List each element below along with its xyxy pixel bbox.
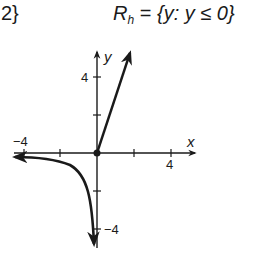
y-tick-label-4: 4 (81, 70, 88, 85)
line-right-branch (97, 53, 130, 153)
y-axis-label: y (103, 48, 113, 65)
x-tick-label-neg4: −4 (13, 134, 28, 149)
x-tick-label-4: 4 (166, 157, 173, 172)
function-graph: x y −4 4 4 −4 (0, 0, 261, 254)
y-tick-label-neg4: −4 (104, 222, 119, 237)
closed-dot-origin (94, 150, 101, 157)
curve-left-branch (15, 157, 94, 244)
x-axis-label: x (186, 133, 195, 150)
